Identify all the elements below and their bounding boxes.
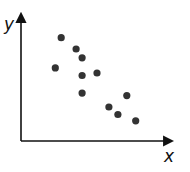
data-point	[105, 103, 112, 110]
data-point	[58, 34, 65, 41]
data-point	[79, 90, 86, 97]
data-point	[114, 111, 121, 118]
y-axis-label: y	[3, 14, 15, 34]
data-point	[79, 54, 86, 61]
data-point	[93, 69, 100, 76]
data-point	[52, 64, 59, 71]
data-point	[132, 117, 139, 124]
data-points	[52, 34, 140, 124]
data-point	[73, 45, 80, 52]
scatter-plot: x y	[0, 0, 190, 172]
data-point	[123, 92, 130, 99]
x-axis-label: x	[163, 146, 175, 166]
data-point	[79, 72, 86, 79]
